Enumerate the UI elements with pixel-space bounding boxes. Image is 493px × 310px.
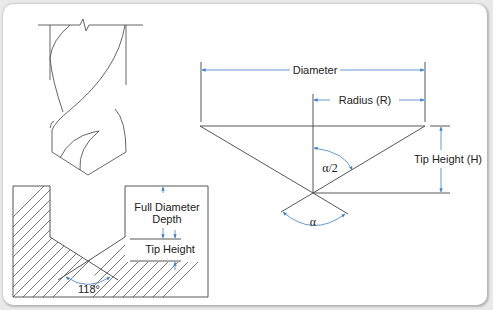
radius-label: Radius (R)	[339, 94, 392, 106]
angle-118-label: 118°	[78, 283, 100, 295]
tip-height-label: Tip Height	[145, 243, 195, 255]
depth-label: Depth	[152, 213, 181, 225]
diameter-label: Diameter	[293, 64, 338, 76]
tip-height-h-label: Tip Height (H)	[414, 153, 482, 165]
drill-geometry-diagram: Full Diameter Depth Tip Height 118°	[0, 0, 493, 310]
hole-section: Full Diameter Depth Tip Height 118°	[0, 180, 280, 310]
tip-geometry: Diameter Radius (R) Tip Height (H) α/2 α	[200, 62, 482, 229]
drill-bit-sketch	[38, 19, 143, 175]
alpha-angle-label: α	[310, 215, 317, 229]
half-angle-label: α/2	[322, 161, 338, 175]
break-line	[38, 19, 143, 31]
full-diameter-label: Full Diameter	[134, 201, 200, 213]
